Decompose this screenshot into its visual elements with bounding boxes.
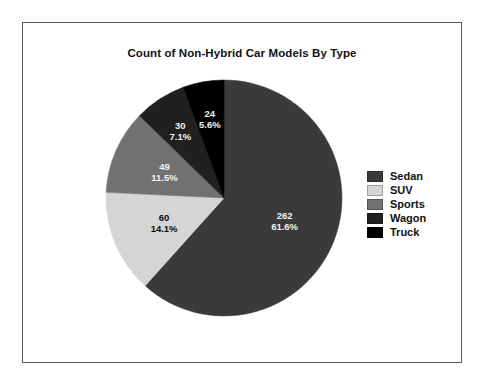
pie-slice-percent: 61.6% xyxy=(271,221,298,232)
legend-swatch-icon xyxy=(367,199,383,210)
legend: SedanSUVSportsWagonTruck xyxy=(367,169,459,239)
legend-swatch-icon xyxy=(367,171,383,182)
legend-swatch-icon xyxy=(367,185,383,196)
pie-slice-percent: 7.1% xyxy=(169,131,191,142)
pie-chart: 26261.6%6014.1%4911.5%307.1%245.6% xyxy=(105,79,343,317)
pie-slice-value: 262 xyxy=(277,210,293,221)
pie-svg: 26261.6%6014.1%4911.5%307.1%245.6% xyxy=(105,79,343,317)
legend-item-label: SUV xyxy=(390,183,413,197)
legend-swatch-icon xyxy=(367,213,383,224)
legend-item-label: Sports xyxy=(390,197,425,211)
pie-slice-value: 30 xyxy=(175,120,186,131)
pie-slice-value: 24 xyxy=(205,108,216,119)
legend-item-label: Truck xyxy=(390,225,419,239)
chart-title: Count of Non-Hybrid Car Models By Type xyxy=(23,47,461,59)
legend-item-label: Sedan xyxy=(390,169,423,183)
pie-slice-percent: 11.5% xyxy=(151,172,178,183)
legend-item-sedan[interactable]: Sedan xyxy=(367,169,459,183)
pie-slice-group xyxy=(106,80,342,316)
legend-item-label: Wagon xyxy=(390,211,426,225)
pie-slice-value: 49 xyxy=(159,161,170,172)
chart-frame: Count of Non-Hybrid Car Models By Type 2… xyxy=(22,22,462,363)
legend-item-suv[interactable]: SUV xyxy=(367,183,459,197)
pie-slice-percent: 14.1% xyxy=(151,223,178,234)
legend-item-wagon[interactable]: Wagon xyxy=(367,211,459,225)
legend-swatch-icon xyxy=(367,227,383,238)
legend-item-truck[interactable]: Truck xyxy=(367,225,459,239)
legend-item-sports[interactable]: Sports xyxy=(367,197,459,211)
pie-slice-percent: 5.6% xyxy=(199,119,221,130)
pie-slice-value: 60 xyxy=(159,212,170,223)
